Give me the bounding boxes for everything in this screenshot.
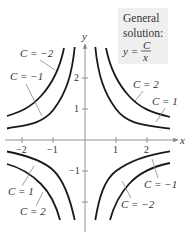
y-tick-label-2: 2 <box>74 72 79 83</box>
curve-q4-cneg2 <box>110 163 170 220</box>
svg-text:C = −2: C = −2 <box>121 198 155 210</box>
legend-denominator: x <box>142 51 148 63</box>
svg-text:C = 1: C = 1 <box>152 95 178 107</box>
legend-numerator: C <box>143 39 151 51</box>
svg-text:C = 2: C = 2 <box>20 205 46 217</box>
label-q2-cneg1: C = −1 <box>10 70 43 116</box>
x-tick-label-2: 2 <box>144 144 149 155</box>
label-q1-c1: C = 1 <box>152 95 178 122</box>
label-q4-cneg1: C = −1 <box>144 159 177 190</box>
legend-line-solution: solution: <box>123 27 163 39</box>
x-tick-label-neg1: −1 <box>47 144 58 155</box>
curve-q2-cneg1 <box>7 47 75 129</box>
svg-text:C = −1: C = −1 <box>10 70 43 82</box>
svg-text:C = 1: C = 1 <box>8 185 34 197</box>
svg-text:C = −2: C = −2 <box>20 47 54 59</box>
legend-equation-lhs: y = <box>122 45 138 57</box>
x-tick-label-1: 1 <box>113 144 118 155</box>
legend-box: General solution: y = C x <box>118 8 168 64</box>
label-q3-c1: C = 1 <box>8 166 34 197</box>
legend-line-general: General <box>123 12 159 24</box>
y-tick-label-1: 1 <box>74 103 79 114</box>
x-axis-label: x <box>179 134 185 146</box>
solution-curves-diagram: General solution: y = C x x y −2 −1 1 2 … <box>0 0 190 233</box>
label-q2-cneg2: C = −2 <box>20 47 55 70</box>
svg-text:C = −1: C = −1 <box>144 178 177 190</box>
y-tick-label-neg1: −1 <box>69 165 80 176</box>
svg-text:C = 2: C = 2 <box>133 78 159 90</box>
y-axis-label: y <box>81 30 87 42</box>
